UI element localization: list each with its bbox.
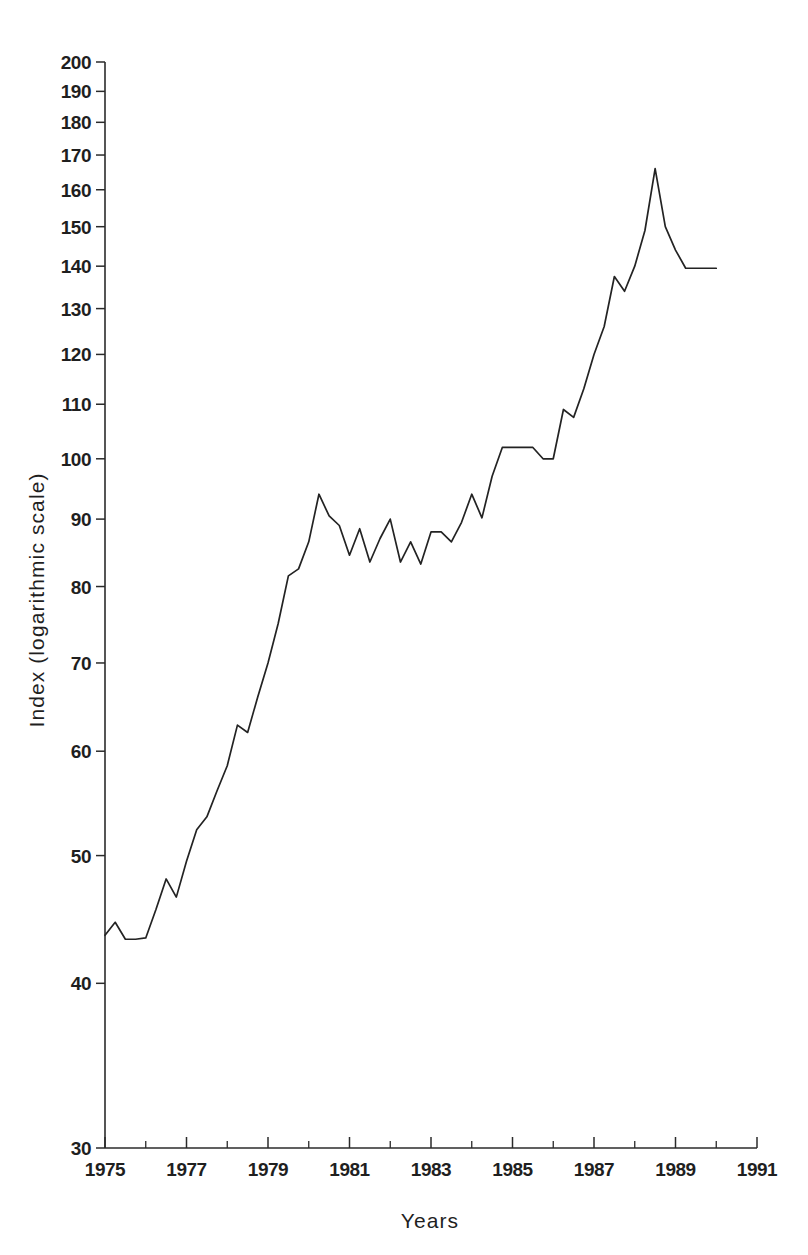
x-tick-label-1983: 1983 xyxy=(411,1159,451,1180)
x-axis-tick-labels: 197519771979198119831985198719891991 xyxy=(85,1159,778,1180)
y-tick-label-150: 150 xyxy=(61,217,91,238)
line-chart-svg: 3040506070809010011012013014015016017018… xyxy=(0,0,808,1255)
y-tick-label-120: 120 xyxy=(61,344,91,365)
x-tick-label-1977: 1977 xyxy=(166,1159,206,1180)
y-tick-label-70: 70 xyxy=(71,653,91,674)
y-tick-label-60: 60 xyxy=(71,741,91,762)
y-axis-title: Index (logarithmic scale) xyxy=(25,472,48,727)
y-tick-label-140: 140 xyxy=(61,256,91,277)
y-tick-label-190: 190 xyxy=(61,81,91,102)
x-tick-label-1981: 1981 xyxy=(329,1159,370,1180)
data-series-group xyxy=(105,169,716,940)
x-axis-group: 197519771979198119831985198719891991 xyxy=(85,1137,778,1180)
x-axis-ticks xyxy=(105,1137,757,1148)
y-axis-ticks xyxy=(96,62,105,1148)
y-axis-group: 3040506070809010011012013014015016017018… xyxy=(61,52,105,1159)
x-tick-label-1985: 1985 xyxy=(492,1159,533,1180)
y-axis-tick-labels: 3040506070809010011012013014015016017018… xyxy=(61,52,91,1159)
x-tick-label-1987: 1987 xyxy=(574,1159,614,1180)
y-tick-label-50: 50 xyxy=(71,846,91,867)
series-line-index xyxy=(105,169,716,940)
y-tick-label-160: 160 xyxy=(61,180,91,201)
y-tick-label-90: 90 xyxy=(71,509,91,530)
y-tick-label-130: 130 xyxy=(61,299,91,320)
y-tick-label-180: 180 xyxy=(61,112,91,133)
y-tick-label-80: 80 xyxy=(71,577,91,598)
y-tick-label-170: 170 xyxy=(61,145,91,166)
y-tick-label-110: 110 xyxy=(62,394,91,415)
x-tick-label-1989: 1989 xyxy=(655,1159,695,1180)
x-tick-label-1975: 1975 xyxy=(85,1159,126,1180)
y-tick-label-40: 40 xyxy=(71,973,91,994)
y-tick-label-100: 100 xyxy=(61,449,91,470)
x-axis-title: Years xyxy=(401,1209,459,1232)
x-tick-label-1991: 1991 xyxy=(737,1159,778,1180)
y-tick-label-30: 30 xyxy=(71,1138,91,1159)
chart-figure: 3040506070809010011012013014015016017018… xyxy=(0,0,808,1255)
y-tick-label-200: 200 xyxy=(61,52,91,73)
x-tick-label-1979: 1979 xyxy=(248,1159,288,1180)
